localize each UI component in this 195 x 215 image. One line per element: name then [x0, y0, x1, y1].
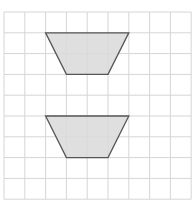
upper-trapezoid [46, 33, 129, 75]
lower-trapezoid [46, 116, 129, 158]
grid-diagram [0, 0, 195, 215]
